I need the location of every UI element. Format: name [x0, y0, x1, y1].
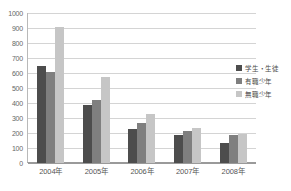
y-axis-tick-label: 100: [12, 145, 23, 152]
bar-group: [74, 13, 120, 163]
bar: [183, 131, 192, 163]
bar: [101, 77, 110, 163]
x-axis-tick-labels: 2004年2005年2006年2007年2008年: [28, 165, 256, 176]
y-axis-tick-label: 0: [19, 160, 23, 167]
bar: [92, 100, 101, 163]
y-axis-tick-label: 800: [12, 40, 23, 47]
bar: [83, 105, 92, 163]
bar: [192, 128, 201, 163]
bar: [128, 129, 137, 163]
bar-chart: 10009008007006005004003002001000 2004年20…: [0, 0, 291, 191]
legend-swatch-icon: [236, 65, 242, 71]
x-axis-tick-label: 2005年: [74, 165, 120, 176]
y-axis-tick-label: 300: [12, 115, 23, 122]
bar-group: [119, 13, 165, 163]
bar-group: [28, 13, 74, 163]
y-axis-tick-label: 700: [12, 55, 23, 62]
bar: [220, 143, 229, 163]
bar: [229, 135, 238, 164]
bar: [37, 66, 46, 163]
y-axis-tick-label: 500: [12, 85, 23, 92]
y-axis-tick-label: 900: [12, 25, 23, 32]
bar: [146, 114, 155, 164]
x-axis-tick-label: 2006年: [119, 165, 165, 176]
x-axis-tick-label: 2007年: [165, 165, 211, 176]
bar-groups: [28, 13, 256, 163]
legend-item: 有職少年: [236, 76, 279, 86]
y-axis-tick-label: 200: [12, 130, 23, 137]
y-axis-tick-label: 600: [12, 70, 23, 77]
legend-swatch-icon: [236, 78, 242, 84]
legend-label: 無職少年: [245, 89, 272, 99]
x-axis-tick-label: 2004年: [28, 165, 74, 176]
y-axis-tick-labels: 10009008007006005004003002001000: [0, 13, 25, 163]
legend-label: 有職少年: [245, 76, 272, 86]
y-axis-tick-label: 1000: [8, 10, 23, 17]
bar: [174, 135, 183, 164]
bar: [46, 72, 55, 163]
legend-item: 無職少年: [236, 89, 279, 99]
bar-group: [165, 13, 211, 163]
legend: 学生・生徒有職少年無職少年: [236, 63, 279, 99]
x-axis-tick-label: 2008年: [210, 165, 256, 176]
legend-item: 学生・生徒: [236, 63, 279, 73]
legend-swatch-icon: [236, 91, 242, 97]
bar: [238, 134, 247, 163]
gridline: [28, 163, 256, 164]
bar: [55, 27, 64, 164]
y-axis-tick-label: 400: [12, 100, 23, 107]
legend-label: 学生・生徒: [245, 63, 279, 73]
bar: [137, 123, 146, 163]
